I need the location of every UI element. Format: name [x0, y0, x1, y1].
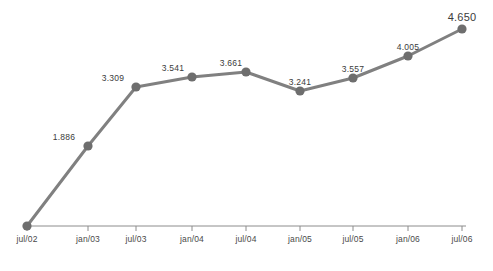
data-point-label: 4.005 [397, 43, 419, 52]
x-axis-label: jan/06 [396, 235, 420, 244]
data-point-label: 3.541 [162, 64, 184, 73]
data-point-marker[interactable] [457, 24, 466, 33]
data-point-label: 4.650 [448, 12, 477, 23]
data-point-label: 3.241 [289, 78, 311, 87]
data-point-label: 3.309 [102, 74, 124, 83]
data-point-marker[interactable] [22, 221, 31, 230]
x-axis-label: jan/05 [288, 235, 312, 244]
data-point-marker[interactable] [187, 72, 196, 81]
data-point-label: 1.886 [53, 133, 75, 142]
x-axis-label: jan/03 [76, 235, 100, 244]
data-point-marker[interactable] [131, 82, 140, 91]
data-point-marker[interactable] [403, 51, 412, 60]
data-point-markers [22, 24, 466, 230]
x-axis-label: jul/02 [17, 235, 38, 244]
line-chart: 1.8863.3093.5413.6613.2413.5574.0054.650… [0, 0, 493, 271]
x-axis-label: jul/03 [126, 235, 147, 244]
data-point-label: 3.661 [220, 59, 242, 68]
x-axis [27, 226, 466, 231]
data-point-marker[interactable] [348, 73, 357, 82]
data-point-label: 3.557 [342, 65, 364, 74]
x-axis-label: jul/05 [343, 235, 364, 244]
data-point-marker[interactable] [295, 86, 304, 95]
series-line [27, 29, 462, 226]
x-axis-label: jul/06 [452, 235, 473, 244]
x-axis-label: jan/04 [180, 235, 204, 244]
data-point-marker[interactable] [241, 67, 250, 76]
data-point-marker[interactable] [83, 141, 92, 150]
x-axis-label: jul/04 [236, 235, 257, 244]
